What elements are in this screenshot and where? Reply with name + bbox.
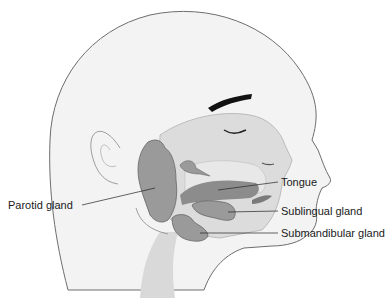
head-diagram <box>0 0 387 298</box>
label-sublingual-gland: Sublingual gland <box>281 205 362 217</box>
label-parotid-gland: Parotid gland <box>8 199 73 211</box>
label-tongue: Tongue <box>281 176 317 188</box>
label-submandibular-gland: Submandibular gland <box>281 227 385 239</box>
